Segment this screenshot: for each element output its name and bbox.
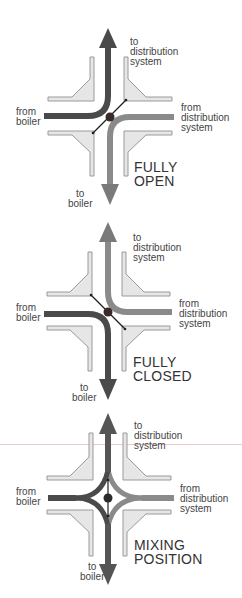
pivot-icon <box>104 494 113 503</box>
label-to-distribution: to distribution system <box>133 233 181 263</box>
pivot-icon <box>106 113 115 122</box>
label-from-distribution: from distribution system <box>180 484 228 514</box>
diagram-fully-open: to distribution system from boiler from … <box>0 0 242 210</box>
hot-flow-path <box>44 44 108 116</box>
arrow-up-icon <box>99 28 117 48</box>
state-label: MIXING POSITION <box>134 538 203 566</box>
label-to-distribution: to distribution system <box>130 37 178 67</box>
diagram-mixing-position: to distribution system from boiler from … <box>0 386 242 598</box>
label-from-boiler: from boiler <box>16 303 40 323</box>
arrow-up-icon <box>99 222 117 242</box>
hot-flow-path <box>44 314 108 383</box>
label-from-boiler: from boiler <box>16 107 40 127</box>
arrow-up-icon <box>99 413 117 434</box>
label-from-distribution: from distribution system <box>181 103 229 133</box>
state-label: FULLY OPEN <box>134 160 178 188</box>
label-to-boiler: to boiler <box>80 562 104 582</box>
label-from-distribution: from distribution system <box>179 299 227 329</box>
state-label: FULLY CLOSED <box>133 355 192 383</box>
pivot-icon <box>104 308 113 317</box>
label-from-boiler: from boiler <box>16 487 40 507</box>
label-to-distribution: to distribution system <box>134 421 182 451</box>
diagram-fully-closed: to distribution system from boiler from … <box>0 195 242 405</box>
